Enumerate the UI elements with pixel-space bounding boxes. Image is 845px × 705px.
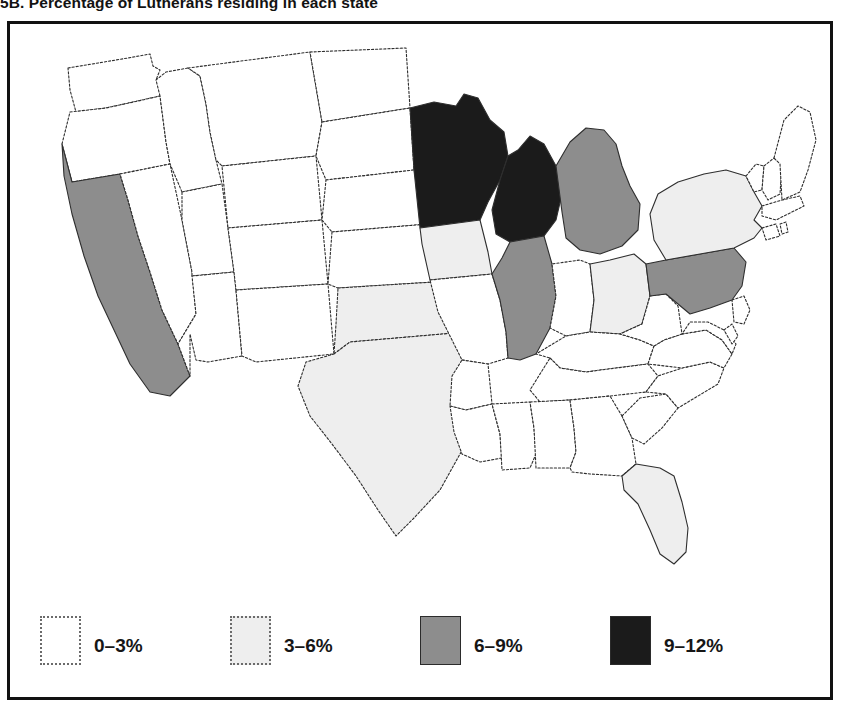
legend-item-3-6: 3–6% [230,616,420,665]
legend-label-0-3: 0–3% [94,636,143,665]
legend-item-0-3: 0–3% [40,616,230,665]
legend-swatch-9-12 [610,616,651,665]
state-ia [420,220,492,280]
state-fl [622,464,688,564]
choropleth-map [10,24,830,697]
state-nj [732,296,750,324]
state-nm [236,284,334,362]
state-ks [328,224,434,288]
state-al [530,400,576,468]
state-ne [322,170,428,232]
state-wy [222,156,322,228]
map-legend: 0–3% 3–6% 6–9% 9–12% [40,609,800,671]
us-states-map [10,24,830,604]
state-oh [590,254,650,334]
state-nh [762,158,782,200]
legend-swatch-6-9 [420,616,461,665]
legend-label-9-12: 9–12% [664,636,723,665]
legend-swatch-0-3 [40,616,81,665]
legend-item-9-12: 9–12% [610,616,800,665]
state-ct [762,224,780,240]
state-in [550,260,594,336]
figure-caption: 5B. Percentage of Lutherans residing in … [0,0,845,14]
legend-label-6-9: 6–9% [474,636,523,665]
state-mi [556,128,640,254]
legend-swatch-3-6 [230,616,271,665]
state-ny [650,170,762,260]
legend-label-3-6: 3–6% [284,636,333,665]
states-layer [62,48,816,564]
legend-item-6-9: 6–9% [420,616,610,665]
map-figure-frame: 0–3% 3–6% 6–9% 9–12% [7,21,833,700]
state-ga [570,396,636,476]
state-ri [780,222,788,234]
state-tx [298,332,480,536]
state-co [228,220,328,290]
